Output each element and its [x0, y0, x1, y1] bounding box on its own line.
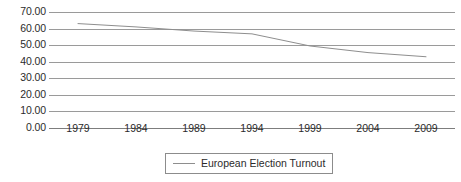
series-line-european-election-turnout [78, 24, 426, 57]
chart-legend: European Election Turnout [165, 153, 333, 174]
legend-line-swatch-icon [173, 163, 195, 164]
series-layer [0, 0, 461, 140]
plot-area: 70.0060.0050.0040.0030.0020.0010.000.00 … [0, 0, 461, 140]
line-chart: 70.0060.0050.0040.0030.0020.0010.000.00 … [0, 0, 461, 182]
legend-label: European Election Turnout [201, 158, 325, 169]
